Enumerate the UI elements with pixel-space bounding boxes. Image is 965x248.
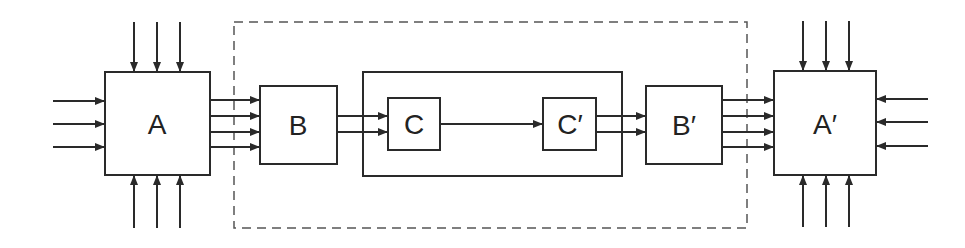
c-prime-to-b-prime-arrows <box>596 116 645 132</box>
block-diagram: A B C C′ <box>0 0 965 248</box>
node-b: B <box>260 86 337 164</box>
svg-text:C′: C′ <box>557 109 582 140</box>
node-a-prime: A′ <box>774 71 876 175</box>
a-top-input-arrows <box>134 22 180 71</box>
a-bottom-input-arrows <box>134 176 180 228</box>
svg-text:B: B <box>289 110 308 141</box>
a-prime-right-input-arrows <box>877 99 928 146</box>
node-c-prime: C′ <box>543 98 596 150</box>
node-c: C <box>388 98 440 150</box>
node-a: A <box>105 72 210 175</box>
node-b-prime: B′ <box>646 86 722 164</box>
a-prime-bottom-input-arrows <box>803 176 849 227</box>
a-left-input-arrows <box>53 101 104 147</box>
a-prime-top-input-arrows <box>803 21 849 70</box>
svg-text:A: A <box>148 109 167 140</box>
svg-text:A′: A′ <box>813 109 837 140</box>
svg-text:B′: B′ <box>672 110 696 141</box>
svg-text:C: C <box>404 109 424 140</box>
